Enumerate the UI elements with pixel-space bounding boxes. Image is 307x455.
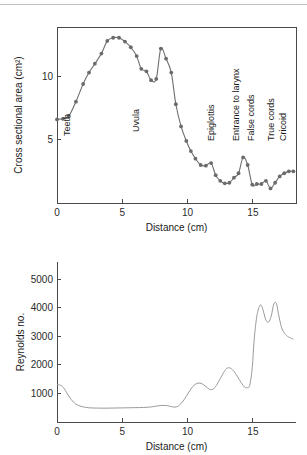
data-point-marker bbox=[227, 181, 231, 185]
annotation-label: Uvula bbox=[131, 109, 141, 132]
x-tick-label: 0 bbox=[54, 207, 60, 218]
y-tick-label: 5 bbox=[47, 134, 53, 145]
data-point-marker bbox=[237, 171, 241, 175]
data-point-marker bbox=[278, 175, 282, 179]
annotation-label: False cords bbox=[246, 94, 256, 141]
data-point-marker bbox=[111, 36, 115, 40]
y-tick-label: 5000 bbox=[31, 274, 54, 285]
data-point-marker bbox=[139, 67, 143, 71]
data-point-marker bbox=[87, 71, 91, 75]
data-point-marker bbox=[282, 171, 286, 175]
data-point-marker bbox=[154, 77, 158, 81]
data-point-marker bbox=[287, 169, 291, 173]
data-point-marker bbox=[218, 179, 222, 183]
y-tick-label: 3000 bbox=[31, 331, 54, 342]
data-point-marker bbox=[105, 39, 109, 43]
data-point-marker bbox=[250, 183, 254, 187]
x-tick-label: 15 bbox=[247, 207, 259, 218]
data-point-marker bbox=[55, 118, 59, 122]
data-point-marker bbox=[291, 169, 295, 173]
y-tick-label: 4000 bbox=[31, 302, 54, 313]
data-point-marker bbox=[209, 161, 213, 165]
data-point-marker bbox=[123, 40, 127, 44]
data-point-marker bbox=[169, 71, 173, 75]
y-axis-title: Cross sectional area (cm²) bbox=[13, 56, 24, 173]
data-point-marker bbox=[264, 179, 268, 183]
data-point-marker bbox=[129, 45, 133, 49]
data-point-marker bbox=[194, 157, 198, 161]
data-point-marker bbox=[223, 181, 227, 185]
annotation-label: Entrance to larynx bbox=[231, 68, 241, 141]
data-point-marker bbox=[135, 54, 139, 58]
y-tick-label: 1000 bbox=[31, 388, 54, 399]
data-point-marker bbox=[255, 182, 259, 186]
x-tick-label: 10 bbox=[182, 207, 194, 218]
x-tick-label: 5 bbox=[120, 426, 126, 437]
data-point-marker bbox=[145, 69, 149, 73]
data-point-marker bbox=[204, 164, 208, 168]
data-point-marker bbox=[184, 139, 188, 143]
data-point-marker bbox=[174, 102, 178, 106]
data-point-marker bbox=[159, 47, 163, 51]
figure-root: 051015510Distance (cm)Cross sectional ar… bbox=[0, 0, 307, 455]
data-point-marker bbox=[241, 156, 245, 160]
data-point-marker bbox=[269, 187, 273, 191]
data-point-marker bbox=[199, 163, 203, 167]
x-tick-label: 15 bbox=[247, 426, 259, 437]
x-axis-title: Distance (cm) bbox=[146, 222, 208, 233]
y-axis-title: Reynolds no. bbox=[15, 313, 26, 371]
annotation-label: Cricoid bbox=[278, 113, 288, 141]
data-point-marker bbox=[81, 82, 85, 86]
annotation-label: True cords bbox=[266, 98, 276, 141]
data-point-marker bbox=[74, 100, 78, 104]
annotation-label: Epiglottis bbox=[206, 104, 216, 141]
data-point-marker bbox=[164, 57, 168, 61]
x-tick-label: 0 bbox=[54, 426, 60, 437]
data-point-marker bbox=[93, 62, 97, 66]
data-point-marker bbox=[259, 182, 263, 186]
data-point-marker bbox=[149, 78, 153, 82]
y-tick-label: 10 bbox=[42, 71, 54, 82]
annotation-label: Teeth bbox=[62, 114, 72, 136]
data-point-marker bbox=[246, 163, 250, 167]
y-tick-label: 2000 bbox=[31, 359, 54, 370]
data-point-marker bbox=[100, 52, 104, 56]
data-point-marker bbox=[273, 181, 277, 185]
data-point-marker bbox=[179, 125, 183, 129]
x-tick-label: 5 bbox=[120, 207, 126, 218]
data-point-marker bbox=[189, 149, 193, 153]
data-point-marker bbox=[214, 173, 218, 177]
data-point-marker bbox=[117, 36, 121, 40]
x-tick-label: 10 bbox=[182, 426, 194, 437]
data-point-marker bbox=[232, 176, 236, 180]
x-axis-title: Distance (cm) bbox=[146, 441, 208, 452]
